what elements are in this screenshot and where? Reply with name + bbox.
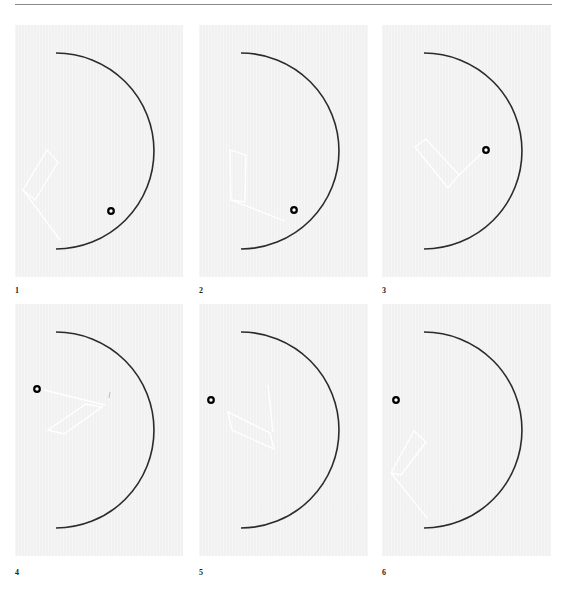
figure-segment-shape (391, 431, 426, 475)
semicircle-arc (56, 53, 154, 249)
figure-arm-line (23, 190, 60, 240)
panel-number-label: 2 (199, 286, 203, 295)
figure-arm-line (391, 473, 427, 518)
semicircle-arc (241, 53, 339, 249)
diagram-panel-4 (15, 304, 183, 556)
target-ring-icon (208, 397, 214, 403)
panel-drawing (15, 304, 183, 556)
figure-segment-shape (415, 139, 459, 188)
target-ring-icon (393, 397, 399, 403)
semicircle-arc (424, 332, 522, 528)
figure-segment-shape (230, 150, 246, 202)
panel-drawing (15, 25, 183, 277)
figure-arm-line (268, 385, 273, 432)
panel-number-label: 6 (382, 568, 386, 577)
target-ring-icon (291, 207, 297, 213)
figure-segment-shape (48, 404, 102, 434)
figure-arm-line (231, 200, 285, 221)
target-ring-icon (483, 147, 489, 153)
figure-arm-line (44, 390, 105, 405)
target-ring-icon (108, 208, 114, 214)
panel-drawing (382, 25, 551, 277)
semicircle-arc (424, 53, 522, 249)
panel-drawing (382, 304, 551, 556)
diagram-panel-1 (15, 25, 183, 277)
panel-number-label: 5 (199, 568, 203, 577)
panel-number-label: 3 (382, 286, 386, 295)
diagram-panel-2 (199, 25, 368, 277)
panel-number-label: 1 (15, 286, 19, 295)
stray-mark (109, 392, 110, 398)
target-ring-icon (34, 386, 40, 392)
figure-segment-shape (228, 412, 274, 449)
diagram-panel-5 (199, 304, 368, 556)
diagram-panel-6 (382, 304, 551, 556)
top-rule (15, 4, 552, 5)
panel-number-label: 4 (15, 568, 19, 577)
figure-arm-line (459, 153, 482, 175)
diagram-panel-3 (382, 25, 551, 277)
panel-drawing (199, 25, 368, 277)
figure-segment-shape (23, 150, 58, 200)
semicircle-arc (241, 332, 339, 528)
panel-drawing (199, 304, 368, 556)
